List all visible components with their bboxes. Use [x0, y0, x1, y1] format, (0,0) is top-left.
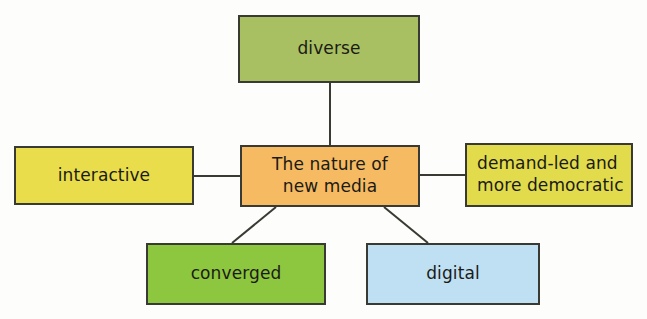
- node-converged-label: converged: [185, 263, 288, 285]
- node-interactive[interactable]: interactive: [14, 146, 194, 205]
- node-demand-led-label: demand-led and more democratic: [467, 153, 630, 197]
- node-digital-label: digital: [420, 263, 486, 285]
- node-center-topic-label: The nature of new media: [266, 154, 394, 198]
- node-interactive-label: interactive: [52, 165, 156, 187]
- mind-map-diagram: diverse interactive The nature of new me…: [0, 0, 647, 319]
- node-digital[interactable]: digital: [366, 243, 540, 305]
- node-center-topic[interactable]: The nature of new media: [240, 145, 420, 207]
- node-converged[interactable]: converged: [146, 243, 326, 305]
- connector-center-converged: [232, 207, 276, 243]
- node-diverse-label: diverse: [291, 38, 366, 60]
- node-demand-led[interactable]: demand-led and more democratic: [465, 143, 633, 207]
- connector-center-digital: [384, 207, 428, 243]
- node-diverse[interactable]: diverse: [238, 15, 420, 83]
